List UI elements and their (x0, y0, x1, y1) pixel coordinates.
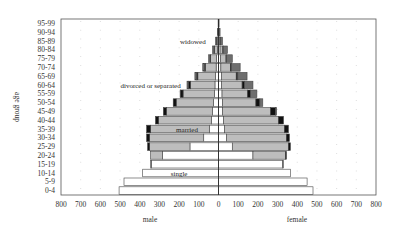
x-tick-label: 500 (114, 200, 126, 209)
bar-segment-female-divorced-or-separated (285, 152, 286, 160)
bar-segment-female-married (221, 64, 230, 72)
x-tick-label: 0 (217, 200, 221, 209)
x-tick-label: 800 (55, 200, 67, 209)
bar-segment-male-single (190, 143, 219, 151)
bar-segment-female-married (224, 125, 284, 133)
bar-segment-female-widowed (244, 81, 252, 89)
bar-segment-female-married (232, 143, 288, 151)
bar-segment-male-married (214, 46, 217, 54)
bar-segment-male-married (158, 116, 211, 124)
x-tick-label: 400 (134, 200, 146, 209)
bar-segment-female-single (219, 178, 308, 186)
bar-segment-male-single (162, 152, 218, 160)
y-tick-label: 65-69 (38, 72, 56, 81)
bar-segment-female-married (226, 134, 286, 142)
x-tick-label: 600 (95, 200, 107, 209)
x-tick-label: 700 (351, 200, 363, 209)
bar-segment-female-divorced-or-separated (271, 108, 276, 116)
bar-segment-male-divorced-or-separated (148, 143, 150, 151)
bar-segment-female-divorced-or-separated (242, 81, 244, 89)
bar-segment-male-single (214, 99, 219, 107)
y-tick-label: 30-34 (38, 133, 56, 142)
bar-segment-male-single (204, 134, 219, 142)
bar-segment-female-single (219, 125, 225, 133)
bar-segment-female-widowed (223, 46, 227, 54)
annotation-label: divorced or separated (120, 82, 181, 90)
bar-segment-female-married (223, 116, 278, 124)
bar-segment-female-widowed (221, 37, 223, 45)
bar-segment-female-single (219, 72, 222, 80)
bar-segment-female-single (219, 116, 224, 124)
x-tick-label: 800 (370, 200, 382, 209)
population-pyramid-chart: widoweddivorced or separatedmarriedsingl… (0, 0, 396, 236)
y-tick-label: 60-64 (38, 81, 56, 90)
x-tick-label: 700 (75, 200, 87, 209)
bar-segment-male-married (183, 90, 215, 98)
bar-segment-female-married (253, 152, 285, 160)
bar-segment-male-married (176, 99, 213, 107)
bar-segment-male-single (152, 160, 219, 168)
bar-segment-female-widowed (276, 108, 277, 116)
bar-segment-female-single (219, 187, 314, 195)
bar-segment-male-single (215, 81, 219, 89)
bar-segment-male-divorced-or-separated (181, 90, 183, 98)
bar-segment-male-widowed (209, 55, 210, 63)
bar-segment-female-divorced-or-separated (284, 125, 288, 133)
y-tick-label: 50-54 (38, 98, 56, 107)
bar-segment-male-single (124, 178, 219, 186)
bar-segment-female-divorced-or-separated (286, 134, 289, 142)
bar-segment-female-single (219, 99, 223, 107)
bar-segment-male-single (215, 90, 219, 98)
x-tick-label: 300 (154, 200, 166, 209)
bar-segment-female-single (219, 169, 291, 177)
x-axis-title-male: male (143, 215, 158, 224)
y-axis-title: age group (13, 92, 22, 122)
y-tick-label: 90-94 (38, 28, 56, 37)
x-axis-title-female: female (287, 215, 308, 224)
y-tick-label: 55-59 (38, 89, 56, 98)
bar-segment-male-divorced-or-separated (173, 99, 176, 107)
bar-segment-female-married (220, 55, 226, 63)
x-tick-label: 400 (292, 200, 304, 209)
y-tick-label: 70-74 (38, 63, 56, 72)
bar-segment-female-single (219, 152, 253, 160)
bar-segment-male-divorced-or-separated (156, 116, 159, 124)
bar-segment-female-married (220, 46, 223, 54)
bar-segment-female-divorced-or-separated (288, 143, 290, 151)
bar-segment-female-single (219, 143, 233, 151)
bar-segment-female-married (221, 81, 242, 89)
bar-segment-female-widowed (219, 28, 220, 36)
bar-segment-male-single (119, 187, 218, 195)
bar-segment-male-married (166, 108, 212, 116)
y-tick-label: 80-84 (38, 45, 56, 54)
bar-segment-female-widowed (231, 64, 240, 72)
y-tick-label: 5-9 (45, 177, 55, 186)
bar-segment-female-widowed (251, 90, 257, 98)
bar-segment-male-widowed (195, 72, 197, 80)
bar-segment-female-widowed (238, 72, 247, 80)
x-tick-label: 200 (174, 200, 186, 209)
bar-segment-female-single (219, 81, 222, 89)
x-tick-label: 100 (193, 200, 205, 209)
bar-segment-female-single (219, 160, 283, 168)
bar-segment-female-widowed (260, 99, 263, 107)
y-tick-label: 10-14 (38, 169, 56, 178)
y-tick-label: 95-99 (38, 19, 56, 28)
x-tick-label: 100 (233, 200, 245, 209)
y-tick-label: 45-49 (38, 107, 56, 116)
y-tick-label: 25-29 (38, 142, 56, 151)
x-tick-label: 500 (311, 200, 323, 209)
y-tick-label: 35-39 (38, 125, 56, 134)
bars (119, 20, 313, 195)
bar-segment-male-single (210, 125, 219, 133)
annotation-label: single (171, 170, 188, 178)
y-tick-label: 85-89 (38, 37, 56, 46)
annotation-label: widowed (180, 38, 206, 46)
bar-segment-male-married (150, 134, 204, 142)
bar-segment-male-widowed (180, 90, 181, 98)
y-tick-labels: 0-45-910-1415-1920-2425-2930-3435-3940-4… (38, 19, 56, 195)
bar-segment-female-widowed (227, 55, 233, 63)
bar-segment-male-widowed (203, 64, 205, 72)
bar-segment-male-single (216, 72, 219, 80)
bar-segment-male-married (205, 64, 216, 72)
